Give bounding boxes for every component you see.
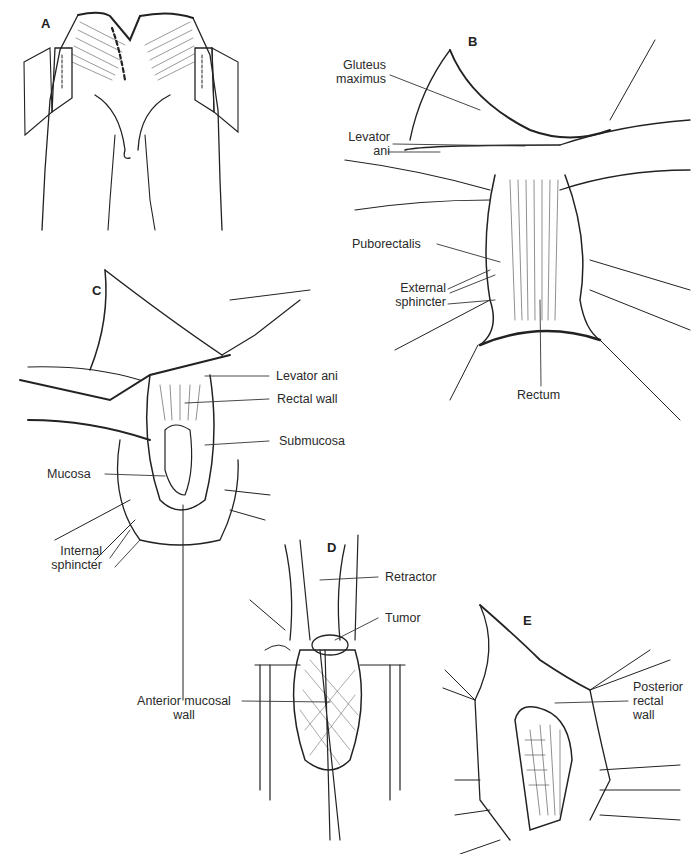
label-internal-sphincter: Internal sphincter bbox=[40, 544, 102, 572]
panel-label-a: A bbox=[41, 16, 50, 31]
label-anterior-mucosal-wall: Anterior mucosal wall bbox=[125, 694, 243, 722]
label-line: Internal bbox=[40, 544, 102, 558]
panel-label-b: B bbox=[468, 34, 477, 49]
label-rectal-wall: Rectal wall bbox=[277, 392, 337, 406]
label-levator-ani-c: Levator ani bbox=[276, 369, 338, 383]
panel-d-drawing bbox=[250, 535, 405, 840]
panel-label-d: D bbox=[327, 540, 336, 555]
panel-a-drawing bbox=[24, 13, 238, 230]
label-line: Levator bbox=[330, 130, 390, 144]
label-retractor: Retractor bbox=[385, 570, 436, 584]
label-levator-ani-b: Levator ani bbox=[330, 130, 390, 158]
label-line: wall bbox=[633, 708, 683, 722]
panel-label-e: E bbox=[523, 613, 532, 628]
panel-label-c: C bbox=[92, 283, 101, 298]
label-line: Gluteus bbox=[326, 58, 386, 72]
label-rectum: Rectum bbox=[517, 388, 560, 402]
label-submucosa: Submucosa bbox=[279, 434, 345, 448]
label-puborectalis: Puborectalis bbox=[352, 237, 421, 251]
label-line: Posterior bbox=[633, 680, 683, 694]
label-line: External bbox=[370, 281, 446, 295]
label-mucosa: Mucosa bbox=[47, 467, 91, 481]
panel-c-drawing bbox=[20, 270, 310, 700]
label-line: Anterior mucosal bbox=[125, 694, 243, 708]
label-posterior-rectal-wall: Posterior rectal wall bbox=[633, 680, 683, 722]
surgical-illustration bbox=[0, 0, 691, 854]
panel-b-drawing bbox=[345, 40, 690, 420]
label-line: wall bbox=[125, 708, 243, 722]
label-line: sphincter bbox=[40, 558, 102, 572]
label-tumor: Tumor bbox=[385, 611, 421, 625]
label-gluteus-maximus: Gluteus maximus bbox=[326, 58, 386, 86]
label-line: sphincter bbox=[370, 295, 446, 309]
panel-e-drawing bbox=[443, 605, 680, 854]
label-line: rectal bbox=[633, 694, 683, 708]
label-external-sphincter: External sphincter bbox=[370, 281, 446, 309]
label-line: maximus bbox=[326, 72, 386, 86]
label-line: ani bbox=[330, 144, 390, 158]
